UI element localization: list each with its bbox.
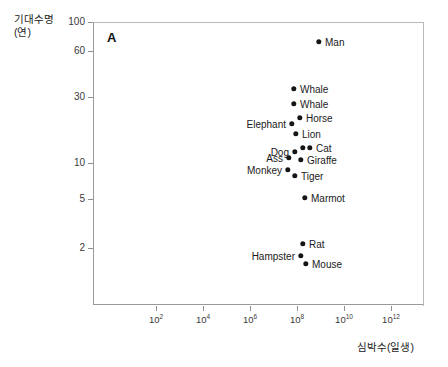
y-axis-title: 기대수명 (연) bbox=[14, 13, 54, 39]
data-point-label-rat: Rat bbox=[309, 239, 325, 250]
x-tick-label-1e10: 1010 bbox=[335, 314, 353, 325]
y-tick-mark-10 bbox=[88, 163, 93, 164]
x-tick-mark-1e8 bbox=[297, 306, 298, 311]
data-point-label-elephant: Elephant bbox=[247, 119, 286, 130]
y-tick-label-2: 2 bbox=[79, 242, 85, 253]
y-tick-mark-30 bbox=[88, 97, 93, 98]
data-point-label-ass: Ass bbox=[266, 153, 283, 164]
data-point-label-mouse: Mouse bbox=[312, 259, 342, 270]
data-point-label-cat2: Cat bbox=[316, 143, 332, 154]
x-tick-label-1e2: 102 bbox=[149, 314, 163, 325]
data-point-label-horse: Horse bbox=[306, 113, 333, 124]
data-point-label-man: Man bbox=[325, 37, 344, 48]
x-tick-mark-1e2 bbox=[156, 306, 157, 311]
y-tick-label-60: 60 bbox=[74, 45, 85, 56]
y-tick-label-10: 10 bbox=[74, 157, 85, 168]
y-tick-label-30: 30 bbox=[74, 91, 85, 102]
data-point-label-whale1: Whale bbox=[300, 84, 328, 95]
x-tick-mark-1e12 bbox=[391, 306, 392, 311]
x-tick-label-1e8: 108 bbox=[290, 314, 304, 325]
y-tick-mark-60 bbox=[88, 51, 93, 52]
y-tick-mark-100 bbox=[88, 22, 93, 23]
y-tick-mark-5 bbox=[88, 199, 93, 200]
x-tick-mark-1e4 bbox=[203, 306, 204, 311]
x-tick-mark-1e10 bbox=[344, 306, 345, 311]
y-tick-label-100: 100 bbox=[68, 16, 85, 27]
panel-label-a: A bbox=[107, 30, 116, 45]
plot-frame-top-edge bbox=[93, 22, 424, 23]
x-tick-label-1e12: 1012 bbox=[382, 314, 400, 325]
chart-canvas: 기대수명 (연) 심박수(일생) A 10060301052 102104106… bbox=[0, 0, 448, 367]
x-tick-label-1e6: 106 bbox=[243, 314, 257, 325]
plot-frame-right-edge bbox=[423, 22, 424, 306]
data-point-label-monkey: Monkey bbox=[247, 165, 282, 176]
x-tick-label-1e4: 104 bbox=[196, 314, 210, 325]
data-point-label-whale2: Whale bbox=[300, 99, 328, 110]
x-tick-mark-1e6 bbox=[250, 306, 251, 311]
data-point-label-marmot: Marmot bbox=[311, 193, 345, 204]
data-point-label-giraffe: Giraffe bbox=[307, 155, 337, 166]
data-point-label-hampster: Hampster bbox=[252, 251, 295, 262]
data-point-label-lion: Lion bbox=[302, 129, 321, 140]
y-tick-mark-2 bbox=[88, 248, 93, 249]
data-point-label-tiger: Tiger bbox=[301, 171, 323, 182]
plot-frame bbox=[93, 22, 424, 305]
x-axis-title: 심박수(일생) bbox=[357, 339, 414, 354]
y-tick-label-5: 5 bbox=[79, 193, 85, 204]
